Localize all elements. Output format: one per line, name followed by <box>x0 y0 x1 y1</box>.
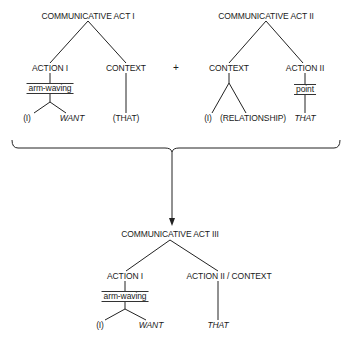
merge-brace <box>12 140 340 152</box>
edge <box>50 21 88 63</box>
arrow-head-icon <box>169 218 175 226</box>
tree1-leaf-i: (I) <box>23 113 31 123</box>
tree1-context-label: CONTEXT <box>106 63 146 73</box>
edge <box>105 309 125 320</box>
tree1-action-label: ACTION I <box>32 63 68 73</box>
tree1-root: COMMUNICATIVE ACT I <box>41 11 134 21</box>
edge <box>229 21 266 63</box>
edge <box>126 240 170 271</box>
tree3-leaf-that: THAT <box>207 320 228 330</box>
tree3-gesture: arm-waving <box>102 291 149 302</box>
tree2-context-label: CONTEXT <box>209 63 249 73</box>
edge <box>88 21 126 63</box>
edge <box>125 309 146 320</box>
edge <box>50 102 66 113</box>
edge <box>229 83 246 113</box>
diagram-lines <box>0 0 350 337</box>
tree1-leaf-that: (THAT) <box>113 113 140 123</box>
tree3-action-context-label: ACTION II / CONTEXT <box>187 271 272 281</box>
tree3-root: COMMUNICATIVE ACT III <box>121 229 219 239</box>
tree2-leaf-that: THAT <box>294 113 315 123</box>
plus-operator: + <box>173 62 179 73</box>
tree3-leaf-i: (I) <box>96 320 104 330</box>
tree2-gesture: point <box>294 84 316 95</box>
tree2-leaf-relationship: (RELATIONSHIP) <box>220 113 286 123</box>
edge <box>170 240 218 271</box>
edge <box>212 83 229 113</box>
tree2-leaf-i: (I) <box>204 113 212 123</box>
tree2-action-label: ACTION II <box>286 63 324 73</box>
tree1-gesture: arm-waving <box>27 83 74 94</box>
edge <box>266 21 303 63</box>
tree3-leaf-want: WANT <box>139 320 163 330</box>
tree2-root: COMMUNICATIVE ACT II <box>218 11 313 21</box>
tree1-leaf-want: WANT <box>60 113 84 123</box>
edge <box>34 102 50 113</box>
tree3-action-label: ACTION I <box>107 271 143 281</box>
